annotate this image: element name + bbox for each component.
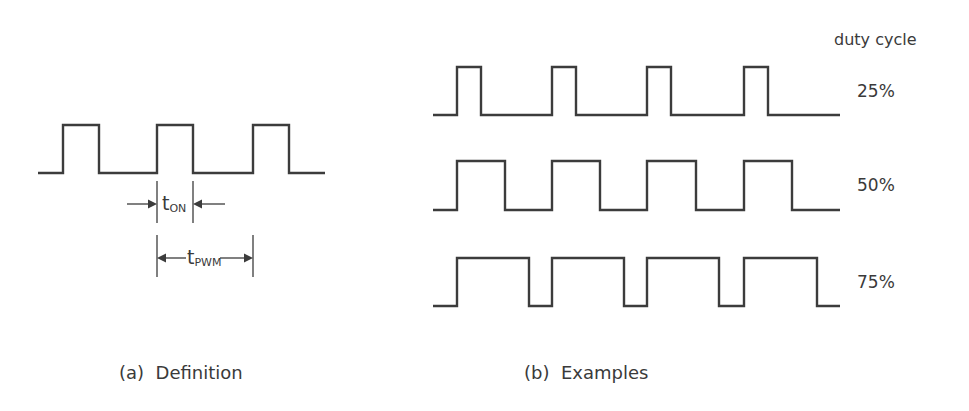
- t-pwm-dimension: tPWM: [157, 235, 253, 277]
- waveform-50-percent: [433, 161, 840, 210]
- waveform-25-percent: [433, 67, 840, 115]
- examples-caption: (b) Examples: [524, 362, 648, 383]
- definition-panel: tON tPWM (a) Definition: [38, 125, 325, 383]
- waveform-75-percent: [433, 258, 840, 306]
- arrow-right-icon: [244, 254, 253, 263]
- arrow-left-icon: [193, 200, 202, 209]
- duty-label-25: 25%: [857, 81, 895, 101]
- arrow-right-icon: [148, 200, 157, 209]
- duty-cycle-header: duty cycle: [834, 30, 916, 49]
- t-on-label: tON: [162, 192, 186, 215]
- definition-waveform: [38, 125, 325, 173]
- examples-panel: duty cycle 25% 50% 75% (b) Examples: [433, 30, 916, 383]
- duty-label-50: 50%: [857, 175, 895, 195]
- definition-caption: (a) Definition: [119, 362, 243, 383]
- duty-label-75: 75%: [857, 272, 895, 292]
- t-pwm-label: tPWM: [187, 246, 221, 269]
- pwm-diagram: tON tPWM (a) Definition duty cycle 25% 5…: [0, 0, 969, 411]
- t-on-dimension: tON: [127, 181, 225, 223]
